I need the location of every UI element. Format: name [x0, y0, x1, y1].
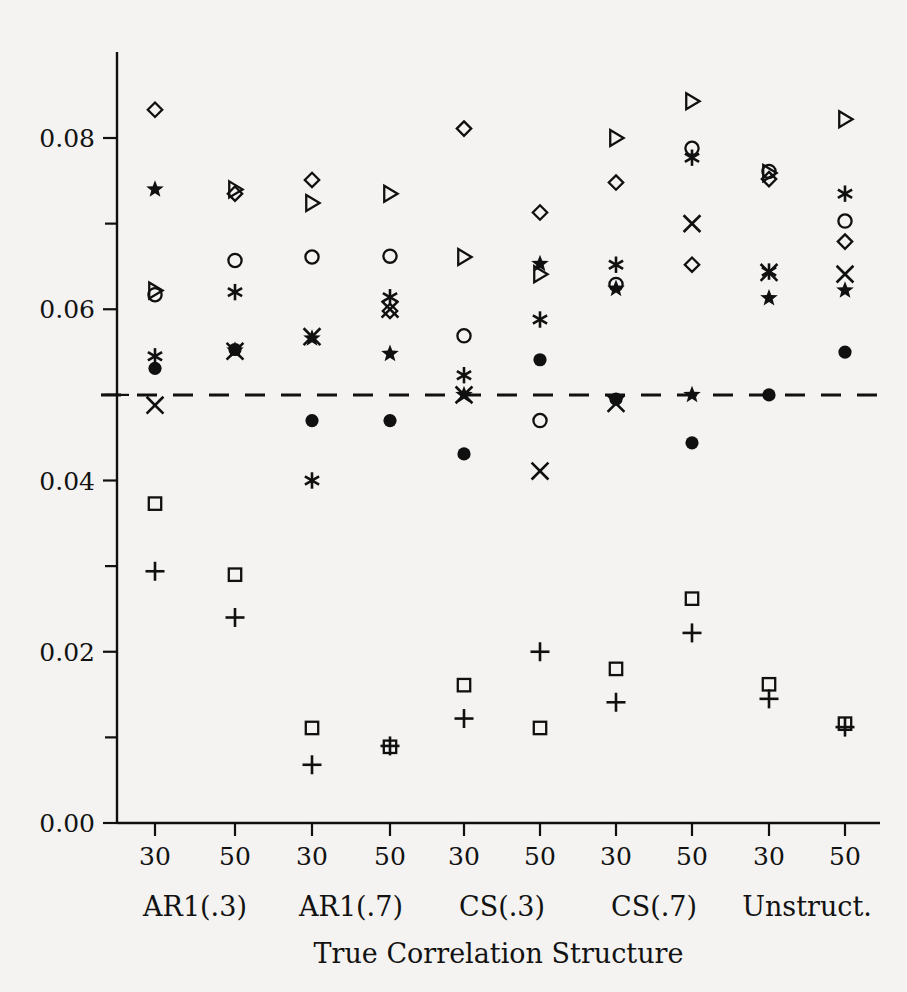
- x-group-label: AR1(.7): [298, 891, 403, 922]
- circle-filled-marker: [383, 414, 396, 427]
- y-tick-label: 0.02: [39, 638, 95, 667]
- x-tick-label: 50: [374, 842, 406, 871]
- data-point-filled-circle: [228, 343, 241, 356]
- x-tick-label: 30: [139, 842, 171, 871]
- x-group-label: AR1(.3): [142, 891, 247, 922]
- x-axis-title: True Correlation Structure: [314, 938, 684, 969]
- circle-filled-marker: [148, 362, 161, 375]
- data-point-filled-circle: [838, 345, 851, 358]
- x-tick-label: 50: [524, 842, 556, 871]
- x-tick-label: 30: [600, 842, 632, 871]
- circle-filled-marker: [228, 343, 241, 356]
- scatter-plot-canvas: 0.000.020.040.060.0830503050305030503050…: [0, 0, 907, 992]
- circle-filled-marker: [305, 414, 318, 427]
- y-tick-label: 0.08: [39, 124, 95, 153]
- x-tick-label: 30: [296, 842, 328, 871]
- data-point-filled-circle: [305, 414, 318, 427]
- data-point-filled-circle: [533, 353, 546, 366]
- x-group-label: Unstruct.: [742, 891, 872, 922]
- data-point-filled-circle: [685, 436, 698, 449]
- x-group-label: CS(.7): [611, 891, 697, 922]
- circle-filled-marker: [609, 393, 622, 406]
- circle-filled-marker: [762, 388, 775, 401]
- y-tick-label: 0.06: [39, 295, 95, 324]
- circle-filled-marker: [685, 436, 698, 449]
- x-tick-label: 30: [753, 842, 785, 871]
- figure-panel: 0.000.020.040.060.0830503050305030503050…: [0, 0, 907, 992]
- y-tick-label: 0.04: [39, 467, 95, 496]
- circle-filled-marker: [533, 353, 546, 366]
- y-tick-label: 0.00: [39, 809, 95, 838]
- data-point-filled-circle: [148, 362, 161, 375]
- data-point-filled-circle: [609, 393, 622, 406]
- x-tick-label: 50: [676, 842, 708, 871]
- data-point-filled-circle: [762, 388, 775, 401]
- circle-filled-marker: [838, 345, 851, 358]
- x-tick-label: 50: [219, 842, 251, 871]
- x-group-label: CS(.3): [459, 891, 545, 922]
- data-point-filled-circle: [457, 447, 470, 460]
- circle-filled-marker: [457, 447, 470, 460]
- x-tick-label: 50: [829, 842, 861, 871]
- data-point-filled-circle: [383, 414, 396, 427]
- x-tick-label: 30: [448, 842, 480, 871]
